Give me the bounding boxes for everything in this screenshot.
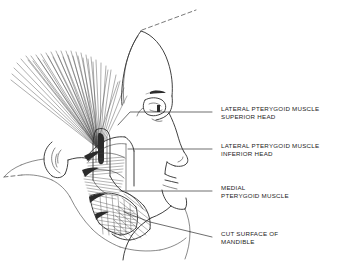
label-line-2: MANDIBLE [221,238,255,245]
orbit-eye [137,98,166,122]
label-line-2: PTERYGOID MUSCLE [221,192,289,199]
facial-profile [122,31,188,218]
label-lateral-pterygoid-superior: LATERAL PTERYGOID MUSCLESUPERIOR HEAD [221,105,319,122]
anatomical-illustration [0,0,361,272]
ear-auricle [44,142,68,178]
label-medial-pterygoid: MEDIALPTERYGOID MUSCLE [221,184,289,201]
label-line-2: SUPERIOR HEAD [221,113,275,120]
label-lateral-pterygoid-inferior: LATERAL PTERYGOID MUSCLEINFERIOR HEAD [221,142,319,159]
cheek-contour [4,158,86,197]
label-line-1: LATERAL PTERYGOID MUSCLE [221,105,319,112]
label-line-2: INFERIOR HEAD [221,150,273,157]
scalp-dashed-line [142,10,196,30]
label-cut-surface-mandible: CUT SURFACE OFMANDIBLE [221,230,278,247]
brow-ridge-shading [146,91,166,94]
label-line-1: CUT SURFACE OF [221,230,278,237]
label-line-1: MEDIAL [221,184,246,191]
label-line-1: LATERAL PTERYGOID MUSCLE [221,142,319,149]
figure-canvas: LATERAL PTERYGOID MUSCLESUPERIOR HEAD LA… [0,0,361,272]
